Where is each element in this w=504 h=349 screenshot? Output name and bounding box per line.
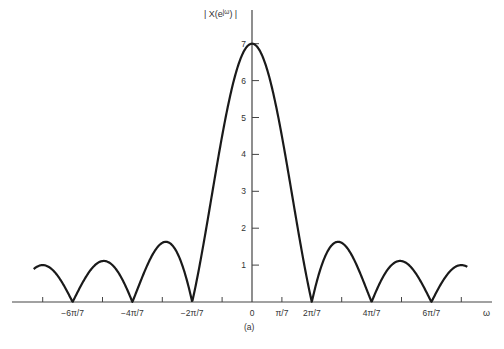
x-axis-title: ω (483, 308, 490, 318)
x-tick-label: π/7 (275, 308, 288, 318)
y-tick-label: 5 (241, 113, 246, 123)
axes (12, 10, 492, 302)
magnitude-curve (34, 44, 468, 302)
x-tick-label: 6π/7 (423, 308, 441, 318)
x-tick-label: 2π/7 (303, 308, 321, 318)
magnitude-response-chart: −6π/7−4π/7−2π/70π/72π/74π/76π/7 1234567 … (0, 0, 504, 349)
x-tick-label: −4π/7 (121, 308, 144, 318)
y-tick-label: 6 (241, 76, 246, 86)
x-tick-label: −2π/7 (181, 308, 204, 318)
y-tick-label: 2 (241, 223, 246, 233)
y-axis-title-sup: jω (222, 8, 230, 16)
y-tick-label: 4 (241, 149, 246, 159)
y-axis-title-main: | X(e (204, 9, 223, 19)
x-tick-label: 0 (250, 308, 255, 318)
y-axis-title-end: ) | (229, 9, 237, 19)
x-tick-label: −6π/7 (61, 308, 84, 318)
y-ticks: 1234567 (241, 39, 259, 270)
y-axis-title: | X(ejω) | (204, 8, 237, 19)
figure-caption: (a) (244, 322, 255, 332)
y-tick-label: 3 (241, 186, 246, 196)
x-tick-label: 4π/7 (363, 308, 381, 318)
y-tick-label: 1 (241, 260, 246, 270)
